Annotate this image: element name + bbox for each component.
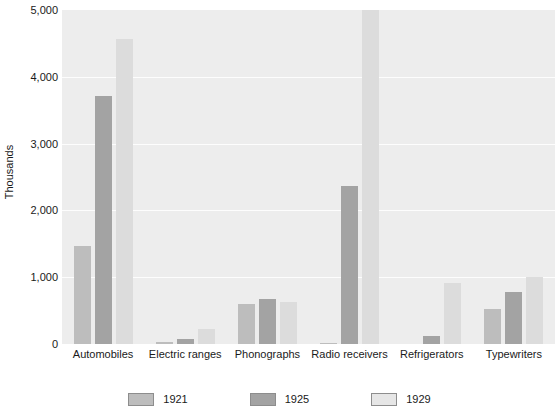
bar-1925[interactable] [505,292,522,344]
bar-group [74,10,133,344]
bar-chart: Thousands 01,0002,0003,0004,0005,000 Aut… [0,0,559,418]
legend-item[interactable]: 1929 [371,393,430,406]
bar-group [484,10,543,344]
y-axis-tick-label: 0 [52,339,58,350]
bar-1925[interactable] [259,299,276,344]
bar-1929[interactable] [198,329,215,344]
legend-swatch [250,393,276,406]
bar-1921[interactable] [484,309,501,344]
y-axis-title-label: Thousands [3,145,15,199]
y-axis-tick-label: 5,000 [30,5,58,16]
x-axis-tick-label: Electric ranges [149,348,222,360]
x-axis-tick-label: Automobiles [73,348,134,360]
bars-layer [62,10,555,344]
plot-area [62,10,555,344]
bar-1925[interactable] [423,336,440,344]
x-axis-tick-label: Refrigerators [400,348,464,360]
legend-swatch [371,393,397,406]
bar-group [156,10,215,344]
y-axis-tick-labels: 01,0002,0003,0004,0005,000 [18,0,58,354]
bar-1929[interactable] [116,39,133,344]
chart-legend: 192119251929 [0,388,559,410]
bar-group [238,10,297,344]
bar-1925[interactable] [95,96,112,344]
bar-1929[interactable] [280,302,297,344]
legend-label: 1929 [406,394,430,405]
bar-group [402,10,461,344]
bar-1929[interactable] [362,10,379,344]
y-axis-tick-label: 4,000 [30,71,58,82]
y-axis-tick-label: 2,000 [30,205,58,216]
bar-1929[interactable] [444,283,461,344]
legend-item[interactable]: 1925 [250,393,309,406]
legend-label: 1921 [163,394,187,405]
x-axis-tick-label: Phonographs [235,348,300,360]
x-axis-tick-label: Typewriters [486,348,542,360]
y-axis-tick-label: 3,000 [30,138,58,149]
bar-group [320,10,379,344]
bar-1925[interactable] [341,186,358,344]
bar-1929[interactable] [526,277,543,344]
y-axis-title: Thousands [2,0,16,344]
bar-1921[interactable] [74,246,91,344]
y-axis-tick-label: 1,000 [30,272,58,283]
bar-1921[interactable] [238,304,255,344]
bar-1925[interactable] [177,339,194,344]
legend-item[interactable]: 1921 [128,393,187,406]
bar-1921[interactable] [156,342,173,344]
legend-label: 1925 [285,394,309,405]
legend-swatch [128,393,154,406]
bar-1921[interactable] [320,343,337,344]
x-axis-tick-labels: AutomobilesElectric rangesPhonographsRad… [62,346,555,364]
x-axis-tick-label: Radio receivers [311,348,387,360]
